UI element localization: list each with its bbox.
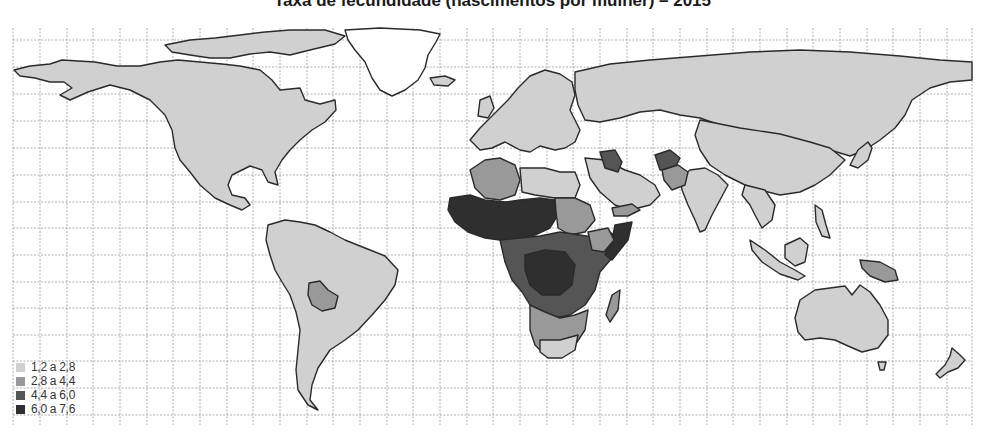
region-borneo [785,238,808,266]
legend-item-4: 6,0 a 7,6 [16,402,75,416]
legend-label-4: 6,0 a 7,6 [31,402,75,416]
region-uk [478,96,494,118]
legend-item-2: 2,8 a 4,4 [16,374,75,388]
region-libya-egypt [520,168,580,198]
map-legend: 1,2 a 2,8 2,8 a 4,4 4,4 a 6,0 6,0 a 7,6 [16,360,75,416]
region-northwest-africa [470,158,520,200]
region-new-zealand [936,348,965,378]
legend-swatch-3 [16,391,25,400]
region-australia [795,285,888,352]
legend-label-2: 2,8 a 4,4 [31,374,75,388]
region-canada-arctic [165,30,345,58]
world-map [0,0,985,441]
legend-item-3: 4,4 a 6,0 [16,388,75,402]
legend-swatch-1 [16,363,25,372]
region-papua-new-guinea [860,260,898,282]
legend-label-1: 1,2 a 2,8 [31,360,75,374]
region-south-america [266,220,398,410]
region-sahel-west-africa [448,195,558,240]
region-greenland [345,28,440,96]
region-madagascar [606,290,620,322]
legend-item-1: 1,2 a 2,8 [16,360,75,374]
region-middle-east [585,158,660,210]
region-sudan [555,198,595,235]
region-tasmania [878,362,886,370]
region-north-america [14,60,336,210]
legend-swatch-4 [16,405,25,414]
legend-swatch-2 [16,377,25,386]
region-iceland [430,76,455,86]
legend-label-3: 4,4 a 6,0 [31,388,75,402]
region-philippines [815,205,830,238]
